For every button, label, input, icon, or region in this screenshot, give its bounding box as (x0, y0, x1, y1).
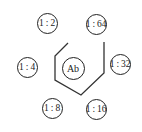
immunodiffusion-diagram: Ab 1 : 2 1 : 64 1 : 4 1 : 32 1 : 8 1 : 1… (0, 0, 142, 132)
antibody-center-well: Ab (62, 57, 85, 80)
well-dilution-1-8: 1 : 8 (42, 98, 63, 119)
well-dilution-1-64: 1 : 64 (86, 14, 107, 35)
well-dilution-1-4: 1 : 4 (17, 57, 38, 78)
well-dilution-1-32: 1 : 32 (110, 54, 131, 75)
well-dilution-1-2: 1 : 2 (37, 13, 58, 34)
well-dilution-1-16: 1 : 16 (86, 99, 107, 120)
